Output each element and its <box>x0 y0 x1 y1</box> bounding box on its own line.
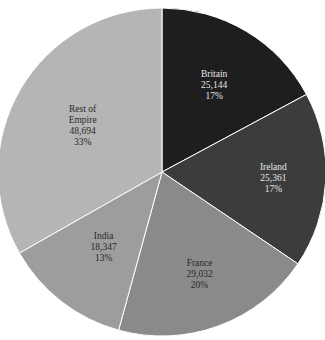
slice-label-india: India18,34713% <box>91 231 117 264</box>
slice-label-britain: Britain25,14417% <box>201 68 227 101</box>
slice-percent: 13% <box>91 253 117 264</box>
slice-percent: 17% <box>260 183 287 194</box>
slice-label-rest-of-empire: Rest ofEmpire48,69433% <box>69 104 97 148</box>
slice-label-ireland: Ireland25,36117% <box>260 161 287 194</box>
slice-name: Ireland <box>260 161 287 172</box>
slice-name: Britain <box>201 68 227 79</box>
slice-name: Empire <box>69 115 97 126</box>
slice-name: France <box>187 257 213 268</box>
slice-value: 25,361 <box>260 172 287 183</box>
slice-value: 29,032 <box>187 268 213 279</box>
slice-label-france: France29,03220% <box>187 257 213 290</box>
slice-percent: 17% <box>201 90 227 101</box>
slice-name: India <box>91 231 117 242</box>
slice-value: 18,347 <box>91 242 117 253</box>
slice-percent: 33% <box>69 137 97 148</box>
slice-value: 48,694 <box>69 126 97 137</box>
slice-name: Rest of <box>69 104 97 115</box>
slice-percent: 20% <box>187 279 213 290</box>
slice-value: 25,144 <box>201 79 227 90</box>
